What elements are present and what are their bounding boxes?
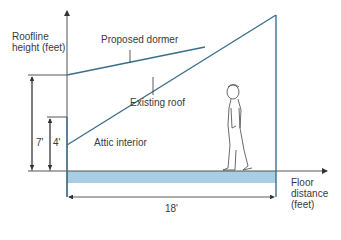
person-icon xyxy=(223,85,252,171)
existing-roof-label: Existing roof xyxy=(130,97,185,109)
y-axis-label-line2: height (feet) xyxy=(12,42,65,54)
proposed-dormer-label: Proposed dormer xyxy=(101,34,178,46)
proposed-dormer-line xyxy=(67,47,205,75)
attic-interior-label: Attic interior xyxy=(94,137,147,149)
dim-4-label: 4' xyxy=(53,137,60,149)
floor-band xyxy=(67,171,276,183)
x-axis-label-line3: (feet) xyxy=(291,199,314,211)
dim-7-label: 7' xyxy=(36,137,43,149)
dim-18-label: 18' xyxy=(165,203,178,215)
